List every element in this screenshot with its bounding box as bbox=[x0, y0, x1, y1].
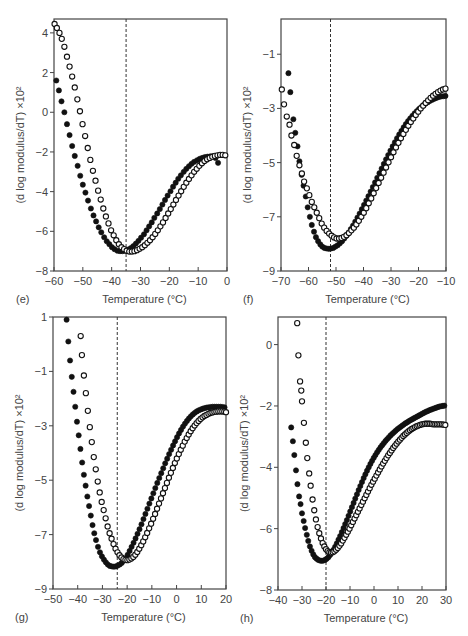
open-circle-marker bbox=[386, 160, 391, 165]
open-circle-marker bbox=[313, 517, 318, 522]
filled-circle-marker bbox=[80, 460, 85, 465]
open-circle-marker bbox=[83, 391, 88, 396]
x-axis-label: Temperature (°C) bbox=[101, 611, 185, 623]
filled-circle-marker bbox=[85, 198, 90, 203]
open-circle-marker bbox=[296, 353, 301, 358]
open-circle-marker bbox=[111, 233, 116, 238]
filled-circle-marker bbox=[442, 403, 447, 408]
filled-circle-marker bbox=[303, 525, 308, 530]
x-tick-label: −20 bbox=[409, 275, 428, 287]
y-tick-label: 0 bbox=[42, 106, 48, 118]
y-tick-label: −4 bbox=[35, 186, 48, 198]
filled-circle-marker bbox=[80, 182, 85, 187]
filled-circle-marker bbox=[145, 506, 150, 511]
open-circle-marker bbox=[98, 197, 103, 202]
filled-circle-marker bbox=[96, 225, 101, 230]
panel-label: (e) bbox=[16, 293, 29, 305]
y-tick-label: 2 bbox=[42, 67, 48, 79]
y-tick-label: −1 bbox=[262, 48, 275, 60]
y-tick-label: −9 bbox=[262, 265, 275, 277]
open-circle-marker bbox=[99, 499, 104, 504]
open-circle-marker bbox=[160, 491, 165, 496]
open-circle-marker bbox=[309, 199, 314, 204]
filled-circle-marker bbox=[66, 339, 71, 344]
filled-circle-marker bbox=[83, 190, 88, 195]
open-circle-marker bbox=[297, 379, 302, 384]
filled-circle-marker bbox=[88, 206, 93, 211]
open-circle-marker bbox=[223, 153, 228, 158]
open-circle-marker bbox=[315, 525, 320, 530]
open-circle-marker bbox=[307, 471, 312, 476]
figure-canvas: −60−50−40−30−20−100−8−6−4−2024Temperatur… bbox=[0, 0, 468, 636]
x-tick-label: −10 bbox=[437, 275, 456, 287]
open-circle-marker bbox=[85, 408, 90, 413]
filled-circle-marker bbox=[151, 491, 156, 496]
filled-circle-marker bbox=[292, 452, 297, 457]
filled-circle-marker bbox=[95, 544, 100, 549]
series-filled bbox=[54, 78, 221, 254]
open-circle-marker bbox=[106, 221, 111, 226]
open-circle-marker bbox=[93, 178, 98, 183]
x-tick-label: 20 bbox=[220, 593, 232, 605]
open-circle-marker bbox=[299, 171, 304, 176]
filled-circle-marker bbox=[293, 468, 298, 473]
open-circle-marker bbox=[95, 479, 100, 484]
filled-circle-marker bbox=[139, 522, 144, 527]
open-circle-marker bbox=[314, 210, 319, 215]
x-tick-label: −20 bbox=[118, 593, 137, 605]
open-circle-marker bbox=[292, 142, 297, 147]
y-tick-label: 4 bbox=[42, 27, 48, 39]
y-tick-label: −7 bbox=[262, 211, 275, 223]
open-circle-marker bbox=[91, 454, 96, 459]
x-tick-label: 20 bbox=[416, 594, 428, 606]
panel-e: −60−50−40−30−20−100−8−6−4−2024Temperatur… bbox=[14, 19, 230, 305]
open-circle-marker bbox=[105, 524, 110, 529]
filled-circle-marker bbox=[71, 389, 76, 394]
open-circle-marker bbox=[307, 193, 312, 198]
open-circle-marker bbox=[72, 85, 77, 90]
open-circle-marker bbox=[78, 333, 83, 338]
open-circle-marker bbox=[96, 188, 101, 193]
filled-circle-marker bbox=[301, 518, 306, 523]
filled-circle-marker bbox=[153, 485, 158, 490]
open-circle-marker bbox=[443, 86, 448, 91]
open-circle-marker bbox=[223, 410, 228, 415]
x-tick-label: −40 bbox=[68, 593, 87, 605]
open-circle-marker bbox=[374, 185, 379, 190]
open-circle-marker bbox=[54, 25, 59, 30]
y-tick-label: −1 bbox=[34, 365, 47, 377]
x-tick-label: −60 bbox=[299, 275, 318, 287]
y-tick-label: −5 bbox=[262, 157, 275, 169]
filled-circle-marker bbox=[155, 480, 160, 485]
x-tick-label: −10 bbox=[341, 594, 360, 606]
filled-circle-marker bbox=[86, 503, 91, 508]
open-circle-marker bbox=[287, 122, 292, 127]
y-tick-label: −3 bbox=[262, 102, 275, 114]
open-circle-marker bbox=[281, 102, 286, 107]
y-tick-label: 1 bbox=[41, 311, 47, 323]
y-tick-label: −7 bbox=[34, 529, 47, 541]
filled-circle-marker bbox=[149, 496, 154, 501]
panel-label: (h) bbox=[240, 612, 253, 624]
open-circle-marker bbox=[97, 490, 102, 495]
x-tick-label: 0 bbox=[174, 593, 180, 605]
filled-circle-marker bbox=[70, 143, 75, 148]
open-circle-marker bbox=[379, 175, 384, 180]
x-tick-label: −40 bbox=[354, 275, 373, 287]
filled-circle-marker bbox=[147, 501, 152, 506]
open-circle-marker bbox=[301, 420, 306, 425]
y-tick-label: −9 bbox=[34, 583, 47, 595]
open-circle-marker bbox=[154, 506, 159, 511]
open-circle-marker bbox=[371, 191, 376, 196]
open-circle-marker bbox=[75, 97, 80, 102]
open-circle-marker bbox=[279, 87, 284, 92]
y-axis-label: (d log modulus/dT) ×10² bbox=[14, 86, 26, 203]
filled-circle-marker bbox=[62, 110, 67, 115]
open-circle-marker bbox=[284, 114, 289, 119]
x-tick-label: −20 bbox=[317, 594, 336, 606]
filled-circle-marker bbox=[88, 513, 93, 518]
y-tick-label: −5 bbox=[34, 474, 47, 486]
filled-circle-marker bbox=[304, 532, 309, 537]
open-circle-marker bbox=[80, 122, 85, 127]
filled-circle-marker bbox=[67, 358, 72, 363]
